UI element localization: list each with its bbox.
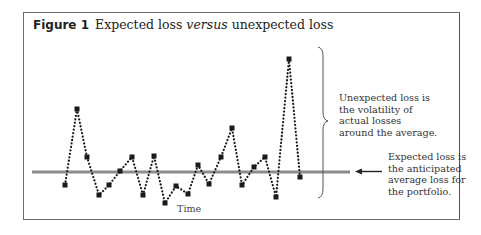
x-axis-label: Time <box>177 203 201 214</box>
data-point-marker <box>174 184 179 189</box>
note-line: the anticipated <box>388 163 466 175</box>
data-point-marker <box>263 155 268 160</box>
data-point-marker <box>141 193 146 198</box>
data-point-marker <box>219 155 224 160</box>
data-point-marker <box>196 163 201 168</box>
actual-losses-line <box>65 59 300 203</box>
data-point-marker <box>298 175 303 180</box>
expected-loss-note: Expected loss is the anticipated average… <box>388 151 466 197</box>
unexpected-loss-brace-icon <box>318 47 328 198</box>
data-point-marker <box>163 201 168 206</box>
note-line: Expected loss is <box>388 151 466 163</box>
data-point-marker <box>118 169 123 174</box>
data-point-markers <box>63 57 303 206</box>
note-line: actual losses <box>339 115 437 127</box>
data-point-marker <box>240 183 245 188</box>
note-line: Unexpected loss is <box>339 92 437 104</box>
data-point-marker <box>186 192 191 197</box>
unexpected-loss-note: Unexpected loss is the volatility of act… <box>339 92 437 138</box>
note-line: the volatility of <box>339 104 437 116</box>
data-point-marker <box>130 155 135 160</box>
data-point-marker <box>252 165 257 170</box>
arrow-left-icon <box>355 169 382 175</box>
note-line: around the average. <box>339 127 437 139</box>
data-point-marker <box>63 183 68 188</box>
data-point-marker <box>274 195 279 200</box>
data-point-marker <box>152 154 157 159</box>
note-line: the portfolio. <box>388 186 466 198</box>
data-point-marker <box>107 183 112 188</box>
data-point-marker <box>207 182 212 187</box>
data-point-marker <box>75 107 80 112</box>
data-point-marker <box>230 126 235 131</box>
note-line: average loss for <box>388 174 466 186</box>
data-point-marker <box>85 155 90 160</box>
data-point-marker <box>287 57 292 62</box>
data-point-marker <box>97 193 102 198</box>
